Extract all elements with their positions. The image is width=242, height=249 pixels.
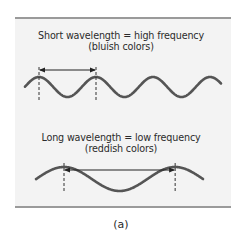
short-wavelength-wave bbox=[25, 77, 221, 97]
figure-caption: (a) bbox=[0, 218, 242, 231]
wave-diagram bbox=[0, 0, 242, 249]
